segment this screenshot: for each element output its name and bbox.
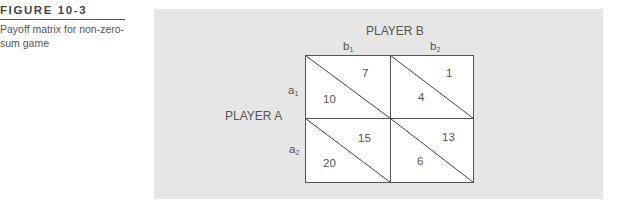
cell-a1-b2-payoff-b: 1: [446, 67, 452, 79]
cell-a1-b1-payoff-a: 10: [323, 93, 336, 105]
cell-a2-b2-payoff-a: 6: [417, 155, 423, 167]
cell-a1-b1-payoff-b: 7: [362, 67, 368, 79]
column-player-label: PLAYER B: [366, 24, 424, 38]
cell-a2-b1-payoff-b: 15: [358, 132, 371, 144]
payoff-matrix: 7 10 1 4 15 20 13 6: [305, 55, 474, 183]
cell-a2-b1-payoff-a: 20: [323, 157, 336, 169]
column-label-b1: b1: [343, 40, 353, 53]
cell-a2-b2-payoff-b: 13: [442, 131, 455, 143]
column-label-b2-sub: 2: [436, 46, 440, 53]
row-label-a1-sub: 1: [294, 90, 298, 97]
row-label-a2: a2: [289, 143, 299, 156]
figure-caption-label: FIGURE 10-3: [0, 4, 87, 16]
row-label-a2-sub: 2: [295, 149, 299, 156]
figure-caption-text: Payoff matrix for non-zero-sum game: [0, 22, 125, 50]
caption-rule: [0, 19, 125, 20]
column-label-b2: b2: [430, 40, 440, 53]
row-label-a1: a1: [288, 84, 298, 97]
column-label-b1-sub: 1: [349, 46, 353, 53]
row-player-label: PLAYER A: [225, 109, 282, 123]
cell-a1-b2-payoff-a: 4: [418, 91, 424, 103]
